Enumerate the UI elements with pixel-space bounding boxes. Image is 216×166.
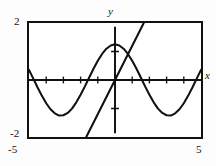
y-min-tick-label: -2: [10, 128, 19, 139]
x-max-tick-label: 5: [196, 144, 202, 155]
plot-frame: [27, 21, 203, 139]
x-axis-label: x: [205, 70, 210, 81]
y-max-tick-label: 2: [14, 16, 20, 27]
plot-canvas: [29, 23, 201, 137]
y-axis-label: y: [108, 6, 113, 17]
graph-figure: y x 2 -2 -5 5: [0, 0, 216, 166]
x-min-tick-label: -5: [8, 144, 17, 155]
